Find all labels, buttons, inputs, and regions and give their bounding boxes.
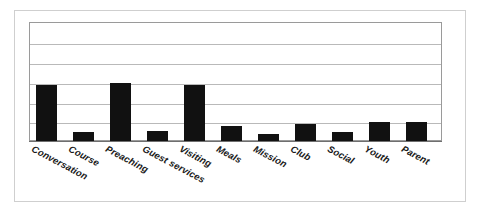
bar — [184, 85, 205, 141]
x-axis-tick-labels: ConversationCoursePreachingGuest service… — [29, 143, 442, 201]
x-axis-tick-label: Mission — [252, 143, 289, 170]
bar — [369, 122, 390, 141]
bar — [36, 85, 57, 141]
x-axis-tick-label: Club — [289, 143, 313, 163]
bar — [258, 134, 279, 141]
bar — [110, 83, 131, 141]
x-axis-tick-label: Youth — [363, 143, 392, 165]
x-axis-tick-label: Guest services — [141, 143, 207, 185]
x-axis-tick-label: Parent — [400, 143, 432, 167]
bar — [73, 132, 94, 141]
bar — [147, 131, 168, 141]
bar-chart-figure: ConversationCoursePreachingGuest service… — [0, 0, 484, 219]
bar — [332, 132, 353, 141]
x-axis-tick-label: Social — [326, 143, 356, 166]
bar — [221, 126, 242, 141]
bar — [295, 124, 316, 141]
x-axis-line — [29, 141, 442, 142]
x-axis-tick-label: Meals — [215, 143, 244, 165]
bar-series — [29, 22, 442, 141]
bar — [406, 122, 427, 141]
